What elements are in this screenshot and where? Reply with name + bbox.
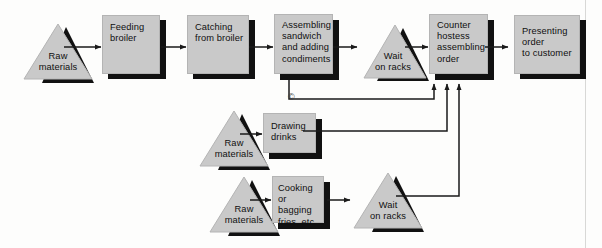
connector-lines [0,0,602,248]
copyright-mark: © [288,92,295,102]
arrow-waitfries-to-counter [396,84,459,196]
arrow-drawing-to-counter [303,84,447,131]
arrow-assembling-bypass-to-counter [289,80,434,99]
process-flowchart: Raw materials Feeding broiler Catching f… [0,0,602,248]
